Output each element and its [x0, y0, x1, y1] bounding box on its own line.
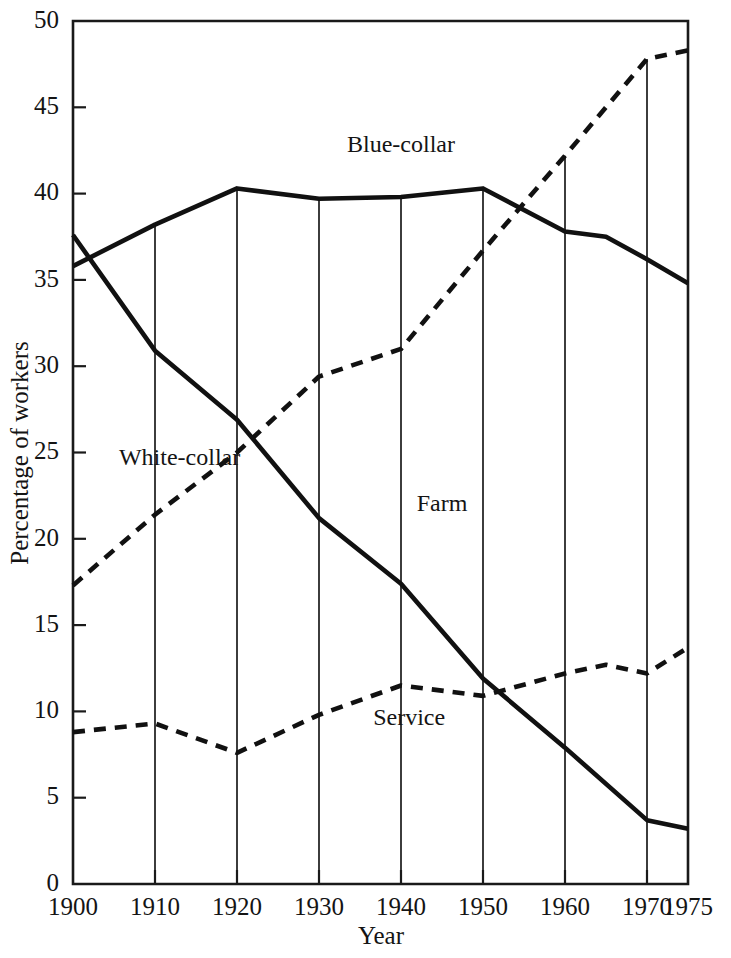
y-tick-label-50: 50	[34, 6, 59, 33]
series-label-farm: Farm	[417, 490, 468, 516]
series-line-blue-collar	[73, 188, 688, 283]
series-line-service	[73, 648, 688, 753]
x-tick-label-1910: 1910	[130, 893, 180, 920]
y-tick-label-35: 35	[34, 265, 59, 292]
y-axis-title: Percentage of workers	[6, 341, 33, 565]
y-tick-label-20: 20	[34, 524, 59, 551]
y-tick-label-45: 45	[34, 92, 59, 119]
y-tick-label-30: 30	[34, 351, 59, 378]
y-tick-label-group: 05101520253035404550	[34, 6, 59, 896]
chart-container: 05101520253035404550 1900191019201930194…	[0, 0, 731, 958]
series-line-farm	[73, 235, 688, 829]
x-tick-label-group: 190019101920193019401950196019701975	[48, 893, 713, 920]
series-label-service: Service	[373, 704, 445, 730]
series-label-white-collar: White-collar	[119, 444, 240, 470]
x-tick-label-1930: 1930	[294, 893, 344, 920]
x-axis-title: Year	[358, 922, 405, 949]
y-tick-label-15: 15	[34, 610, 59, 637]
y-tick-group	[73, 107, 86, 797]
x-tick-group	[155, 870, 647, 884]
series-label-blue-collar: Blue-collar	[347, 131, 455, 157]
y-tick-label-10: 10	[34, 696, 59, 723]
x-tick-label-1940: 1940	[376, 893, 426, 920]
y-tick-label-5: 5	[47, 782, 60, 809]
x-tick-label-1920: 1920	[212, 893, 262, 920]
x-tick-label-1950: 1950	[458, 893, 508, 920]
y-tick-label-40: 40	[34, 178, 59, 205]
line-chart: 05101520253035404550 1900191019201930194…	[0, 0, 731, 958]
series-label-group: Blue-collarWhite-collarFarmService	[119, 131, 468, 730]
y-tick-label-25: 25	[34, 437, 59, 464]
x-tick-label-1975: 1975	[663, 893, 713, 920]
x-tick-label-1960: 1960	[540, 893, 590, 920]
gridline-group	[155, 59, 647, 884]
y-tick-label-0: 0	[47, 869, 60, 896]
x-tick-label-1900: 1900	[48, 893, 98, 920]
